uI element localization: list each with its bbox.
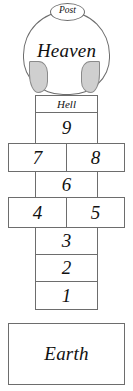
- right-petal-shape: [81, 61, 100, 93]
- heaven-label: Heaven: [23, 40, 110, 62]
- cell-1: 1: [35, 281, 98, 310]
- cell-6: 6: [35, 171, 98, 198]
- post-label: Post: [50, 5, 85, 15]
- cell-2: 2: [35, 254, 98, 282]
- cell-9: 9: [35, 112, 98, 144]
- cell-5: 5: [66, 197, 125, 228]
- cell-8: 8: [66, 143, 125, 172]
- cell-earth: Earth: [8, 323, 125, 385]
- cell-4: 4: [8, 197, 67, 228]
- cell-7: 7: [8, 143, 67, 172]
- left-petal-shape: [29, 61, 48, 93]
- cell-3: 3: [35, 227, 98, 255]
- hopscotch-diagram: Heaven Post Hell978645321Earth: [0, 0, 133, 391]
- cell-hell: Hell: [35, 95, 98, 113]
